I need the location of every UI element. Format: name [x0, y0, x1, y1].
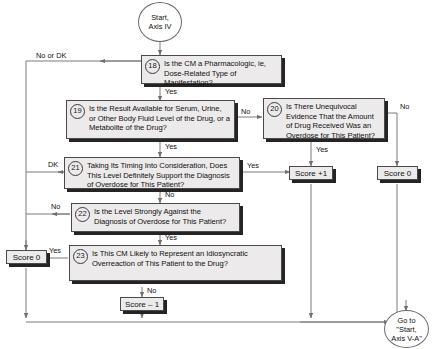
score-box-left[interactable]: Score 0: [6, 250, 47, 264]
score-box-plus1-label: Score +1: [295, 169, 327, 178]
edge-label-q18-yes: Yes: [165, 88, 177, 96]
edge-q20-no: [385, 113, 397, 166]
question-box-22[interactable]: 22 Is the Level Strongly Against the Dia…: [71, 203, 240, 232]
edge-label-q19-no: No: [241, 108, 250, 116]
edge-label-q22-no: No: [51, 203, 60, 211]
goto-terminal-line3: Axis V-A": [391, 334, 422, 343]
question-text-23: Is This CM Likely to Represent an Idiosy…: [92, 249, 277, 268]
flowchart-canvas: Start, Axis IV 18 Is the CM a Pharmacolo…: [0, 0, 438, 349]
edge-label-q19-yes: Yes: [165, 143, 177, 151]
start-terminal-line1: Start,: [151, 13, 169, 22]
question-text-19: Is the Result Available for Serum, Urine…: [89, 104, 230, 133]
edge-label-q18-no: No or DK: [36, 52, 66, 60]
question-text-20: Is There Unequivocal Evidence That the A…: [286, 102, 380, 140]
edge-label-q23-yes: Yes: [49, 247, 61, 255]
score-box-left-label: Score 0: [13, 253, 41, 262]
score-box-minus1-label: Score – 1: [125, 300, 159, 309]
question-text-22: Is the Level Strongly Against the Diagno…: [94, 207, 235, 226]
start-terminal: Start, Axis IV: [138, 2, 182, 42]
question-number-22: 22: [75, 207, 90, 222]
question-text-18: Is the CM a Pharmacologic, ie, Dose-Rela…: [164, 59, 277, 88]
edge-label-q22-yes: Yes: [165, 234, 177, 242]
goto-terminal-line2: "Start,: [396, 325, 416, 334]
edge-label-q20-no: No: [400, 103, 409, 111]
question-text-21: Taking Its Timing Into Consideration, Do…: [87, 161, 235, 190]
question-number-20: 20: [267, 102, 282, 117]
score-box-plus1[interactable]: Score +1: [289, 166, 333, 180]
edge-label-q21-dk: DK: [48, 161, 58, 169]
start-terminal-line2: Axis IV: [149, 22, 172, 31]
score-box-minus1[interactable]: Score – 1: [120, 297, 164, 311]
question-box-21[interactable]: 21 Taking Its Timing Into Consideration,…: [64, 157, 240, 189]
goto-terminal: Go to "Start, Axis V-A": [384, 310, 429, 348]
edge-label-q21-no: No: [165, 191, 174, 199]
question-box-23[interactable]: 23 Is This CM Likely to Represent an Idi…: [69, 245, 282, 281]
goto-terminal-line1: Go to: [397, 316, 415, 325]
question-number-19: 19: [70, 104, 85, 119]
edge-label-q23-no: No: [147, 287, 156, 295]
score-box-right-label: Score 0: [384, 169, 412, 178]
question-number-21: 21: [68, 161, 83, 176]
question-box-18[interactable]: 18 Is the CM a Pharmacologic, ie, Dose-R…: [141, 55, 282, 84]
question-box-19[interactable]: 19 Is the Result Available for Serum, Ur…: [66, 100, 235, 139]
edge-label-q21-yes: Yes: [247, 162, 259, 170]
question-number-23: 23: [73, 249, 88, 264]
question-number-18: 18: [145, 59, 160, 74]
score-box-right[interactable]: Score 0: [377, 166, 418, 180]
edge-label-q20-yes: Yes: [316, 146, 328, 154]
question-box-20[interactable]: 20 Is There Unequivocal Evidence That th…: [263, 98, 385, 139]
